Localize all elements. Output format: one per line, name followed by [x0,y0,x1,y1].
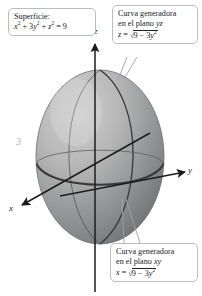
xy-callout-plane: xy [154,257,161,266]
xy-eq-radicand-exp: 2 [152,267,155,273]
yz-callout-line2-pre: en el plano [118,19,156,28]
xy-curve-callout: Curva generadora en el plano xy x = √9 −… [110,243,198,282]
surface-eq-plus2: + [40,22,49,31]
xy-eq-equals: = [120,268,129,277]
y-axis-label: y [188,165,192,175]
surface-eq-plus1: + 3 [20,22,33,31]
yz-callout-line2: en el plano yz [118,19,193,29]
xy-eq-radicand-pre: 9 − 3 [132,269,149,278]
yz-eq-radicand-pre: 9 − 3 [133,31,150,40]
x-axis-label: x [9,203,13,213]
yz-leader-line [118,57,137,80]
yz-callout-line1: Curva generadora [118,9,193,19]
yz-eq-radicand-exp: 2 [154,29,157,35]
xy-leader-line [122,198,140,243]
xy-callout-line2: en el plano xy [116,257,193,267]
yz-curve-callout: Curva generadora en el plano yz z = √9 −… [112,5,198,44]
yz-eq-equals: = [121,30,130,39]
surface-equation: x2 + 3y2 + z2 = 9 [14,22,67,31]
yz-equation: z = √9 − 3y2 [118,30,158,39]
xy-eq-radicand: 9 − 3y2 [132,268,156,279]
xy-callout-line1: Curva generadora [116,247,193,257]
surface-callout: Superficie: x2 + 3y2 + z2 = 9 [8,8,96,36]
xy-callout-line2-pre: en el plano [116,257,154,266]
xy-equation: x = √9 − 3y2 [116,268,156,277]
yz-eq-radicand: 9 − 3y2 [133,30,157,41]
ellipsoid-figure: 3 z y x Superficie: x2 + 3y2 + z2 = 9 Cu… [0,0,202,296]
yz-callout-plane: yz [156,19,163,28]
surface-eq-equals: = 9 [54,22,67,31]
